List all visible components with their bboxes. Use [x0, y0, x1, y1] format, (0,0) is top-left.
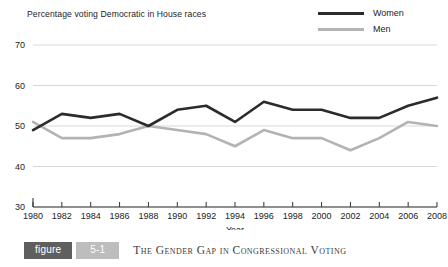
x-axis-ticks: [33, 202, 437, 207]
gridlines: [33, 45, 437, 207]
caption-number-badge: 5-1: [76, 242, 119, 259]
x-tick-label: 2002: [340, 211, 360, 221]
caption-title: The Gender Gap in Congressional Voting: [133, 244, 346, 256]
x-axis-title: Year: [226, 225, 244, 230]
line-chart-svg: 3040506070 19801982198419861988199019921…: [0, 0, 448, 230]
figure-container: Percentage voting Democratic in House ra…: [0, 0, 448, 267]
figure-caption-bar: figure 5-1 The Gender Gap in Congression…: [0, 238, 448, 262]
y-tick-label: 50: [15, 121, 25, 131]
caption-figure-badge: figure: [24, 242, 72, 259]
x-tick-label: 1994: [225, 211, 245, 221]
x-tick-label: 1982: [52, 211, 72, 221]
x-tick-label: 1992: [196, 211, 216, 221]
plot-area: 3040506070 19801982198419861988199019921…: [0, 0, 448, 230]
x-axis-tick-labels: 1980198219841986198819901992199419961998…: [23, 211, 447, 221]
x-tick-label: 1988: [138, 211, 158, 221]
x-tick-label: 1998: [283, 211, 303, 221]
x-tick-label: 1996: [254, 211, 274, 221]
x-tick-label: 1986: [110, 211, 130, 221]
y-tick-label: 40: [15, 162, 25, 172]
x-tick-label: 2004: [369, 211, 389, 221]
x-tick-label: 1980: [23, 211, 43, 221]
x-tick-label: 1984: [81, 211, 101, 221]
x-tick-label: 2006: [398, 211, 418, 221]
y-tick-label: 60: [15, 81, 25, 91]
x-tick-label: 2000: [312, 211, 332, 221]
y-tick-label: 70: [15, 40, 25, 50]
x-tick-label: 2008: [427, 211, 447, 221]
y-axis-tick-labels: 3040506070: [15, 40, 25, 212]
data-series-group: [33, 98, 437, 151]
series-line-women: [33, 98, 437, 130]
x-tick-label: 1990: [167, 211, 187, 221]
